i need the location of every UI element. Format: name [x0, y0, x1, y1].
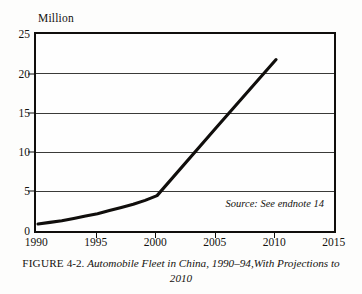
annotation-layer: Source: See endnote 14 [36, 34, 334, 231]
caption-figure-number: 4-2. [67, 257, 85, 269]
x-tick-label-1990: 1990 [25, 236, 48, 248]
y-axis-tick-marks [0, 32, 34, 233]
x-tick-label-2000: 2000 [144, 236, 167, 248]
y-axis-unit-label: Million [38, 12, 74, 24]
x-tick-label-2010: 2010 [263, 236, 286, 248]
x-tick-label-1995: 1995 [84, 236, 107, 248]
source-note: Source: See endnote 14 [226, 198, 324, 209]
caption-figure-label: FIGURE [22, 257, 64, 269]
plot-area: Source: See endnote 14 [34, 32, 336, 233]
figure-container: Million 0510152025 Source: See endnote 1… [0, 0, 362, 294]
caption-figure-title: Automobile Fleet in China, 1990–94,With … [87, 257, 340, 284]
figure-caption: FIGURE 4-2. Automobile Fleet in China, 1… [18, 256, 344, 286]
x-axis-tick-labels: 199019952000200520102015 [34, 236, 336, 256]
x-tick-label-2015: 2015 [322, 236, 345, 248]
x-tick-label-2005: 2005 [203, 236, 226, 248]
